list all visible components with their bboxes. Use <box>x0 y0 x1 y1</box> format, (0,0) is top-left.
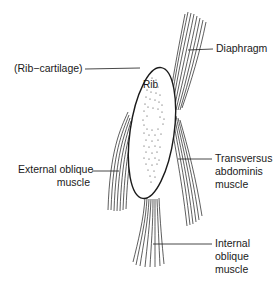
rib-cartilage-label-line: (Rib−cartilage) <box>14 62 83 75</box>
internal-oblique-label: Internal oblique muscle <box>215 237 250 276</box>
rib-label-text: Rib <box>143 78 158 91</box>
internal-oblique-label-line-2: oblique <box>215 250 250 263</box>
diaphragm-label: Diaphragm <box>216 42 267 55</box>
leader-rib-cartilage <box>85 68 140 69</box>
internal-oblique-label-line-3: muscle <box>215 263 250 276</box>
rib-cartilage-label: (Rib−cartilage) <box>14 62 83 75</box>
rib-muscle-attachment-diagram: Rib (Rib−cartilage) Diaphragm External o… <box>0 0 279 281</box>
external-oblique-label: External oblique muscle <box>18 163 90 189</box>
internal-oblique-fibers <box>133 197 164 267</box>
transversus-label-line-1: Transversus <box>215 152 272 165</box>
transversus-label-line-3: muscle <box>215 178 272 191</box>
leader-diaphragm <box>188 49 213 50</box>
transversus-label-line-2: abdominis <box>215 165 272 178</box>
rib-label: Rib <box>143 78 158 91</box>
external-oblique-label-line-2: muscle <box>18 176 90 189</box>
external-oblique-label-line-1: External oblique <box>18 163 90 176</box>
diaphragm-label-line: Diaphragm <box>216 42 267 55</box>
internal-oblique-label-line-1: Internal <box>215 237 250 250</box>
transversus-abdominis-label: Transversus abdominis muscle <box>215 152 272 191</box>
